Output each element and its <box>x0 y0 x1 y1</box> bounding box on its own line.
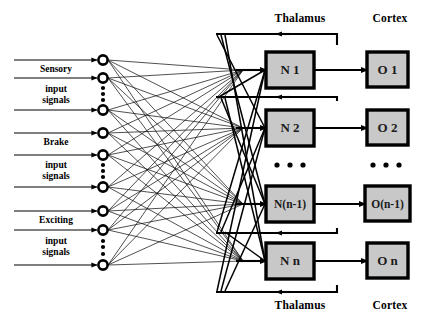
feedback-rail-1 <box>216 34 337 45</box>
row-ellipsis-output-column <box>370 162 401 167</box>
node-ellipsis-dot <box>101 86 105 90</box>
input-node-3 <box>98 105 107 114</box>
header-thalamus-bottom: Thalamus <box>250 299 350 311</box>
node-ellipsis-dot <box>101 239 105 243</box>
node-ellipsis-dot <box>101 169 105 173</box>
input-label-sensory-line1: Sensory <box>18 64 94 75</box>
input-label-sensory-line2: input <box>18 84 94 95</box>
input-label-brake-line1: Brake <box>18 137 94 148</box>
output-ellipsis-dot <box>396 162 401 167</box>
header-cortex-bottom: Cortex <box>345 299 431 311</box>
neuron-box-Nn <box>266 243 314 279</box>
node-ellipsis-dot <box>101 163 105 167</box>
input-label-brake-line3: signals <box>18 171 94 182</box>
input-node-7 <box>98 206 107 215</box>
output-box-O2 <box>367 110 408 145</box>
input-node-4 <box>98 128 107 137</box>
output-box-O1 <box>367 52 408 87</box>
neuron-box-Nn-1 <box>266 186 314 222</box>
input-label-exciting-line3: signals <box>18 247 94 258</box>
input-label-brake-line2: input <box>18 160 94 171</box>
input-node-8 <box>98 225 107 234</box>
node-ellipsis-dot <box>101 252 105 256</box>
neuron-ellipsis-dot <box>274 162 279 167</box>
output-ellipsis-dot <box>370 162 375 167</box>
neuron-ellipsis-dot <box>300 162 305 167</box>
input-node-6 <box>98 182 107 191</box>
input-node-9 <box>98 260 107 269</box>
output-box-On <box>367 243 408 278</box>
node-ellipsis-dot <box>101 245 105 249</box>
node-ellipsis-dot <box>101 175 105 179</box>
row-ellipsis-neuron-column <box>274 162 305 167</box>
neuron-ellipsis-dot <box>287 162 292 167</box>
input-node-5 <box>98 150 107 159</box>
neuron-box-N2 <box>266 110 314 146</box>
input-node-2 <box>98 73 107 82</box>
neuron-box-N1 <box>266 52 314 88</box>
input-label-exciting-line1: Exciting <box>18 215 94 226</box>
input-node-1 <box>98 55 107 64</box>
header-cortex-top: Cortex <box>345 12 431 24</box>
node-ellipsis-dot <box>101 92 105 96</box>
header-thalamus-top: Thalamus <box>250 12 350 24</box>
output-ellipsis-dot <box>383 162 388 167</box>
input-label-sensory-line3: signals <box>18 95 94 106</box>
neural-network-diagram: Thalamus Cortex Thalamus Cortex Sensory … <box>0 0 431 327</box>
output-box-On-1 <box>365 186 410 221</box>
node-ellipsis-dot <box>101 98 105 102</box>
input-to-thalamus-connections <box>108 60 243 265</box>
input-label-exciting-line2: input <box>18 236 94 247</box>
